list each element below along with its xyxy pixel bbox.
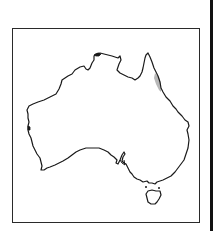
australia-map <box>0 0 213 231</box>
coastline-detail-north <box>94 53 101 56</box>
bass-strait-island <box>158 187 160 189</box>
coastline-detail-west <box>28 126 30 130</box>
bass-strait-island <box>145 186 147 188</box>
tasmania-outline <box>146 190 161 204</box>
mainland-outline <box>27 53 189 184</box>
